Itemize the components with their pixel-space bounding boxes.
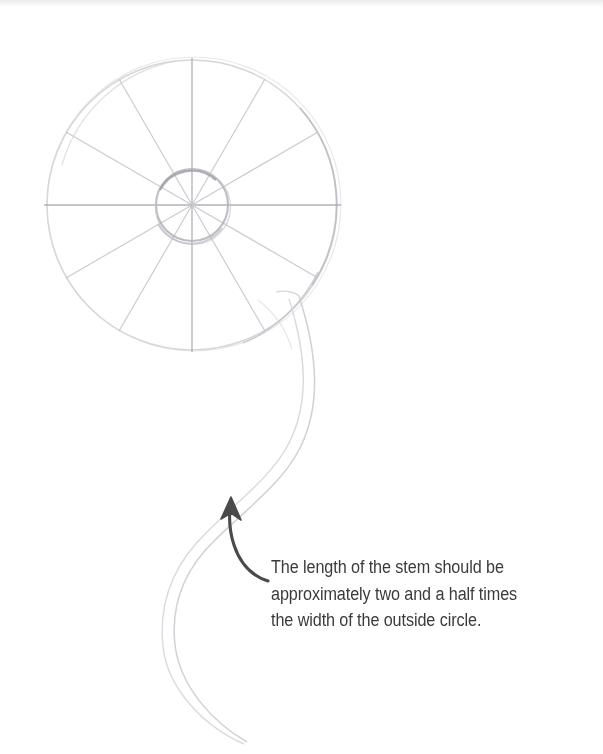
stem-inner-edge	[162, 299, 303, 744]
spoke-60deg	[192, 79, 265, 205]
caption-line-3: the width of the outside circle.	[271, 607, 538, 634]
spoke-330deg	[192, 205, 318, 278]
spoke-240deg	[119, 205, 192, 331]
spoke-150deg	[66, 132, 192, 205]
outer-circle-bottom-right-heavy-arc	[243, 272, 318, 343]
spoke-30deg	[192, 132, 318, 205]
flower-construction-drawing	[0, 0, 603, 754]
spoke-120deg	[119, 79, 192, 205]
measurement-arrow-group	[221, 497, 268, 581]
tutorial-page: The length of the stem should be approxi…	[0, 0, 603, 754]
inner-circle-heavy-arc	[160, 171, 216, 190]
spoke-300deg	[192, 205, 265, 331]
stem-outer-edge	[174, 296, 314, 742]
caption-line-2: approximately two and a half times	[271, 581, 538, 608]
spoke-210deg	[66, 205, 192, 278]
caption-line-1: The length of the stem should be	[271, 554, 538, 581]
stem-attachment-arc	[276, 291, 299, 296]
caption-text-block: The length of the stem should be approxi…	[271, 554, 538, 634]
